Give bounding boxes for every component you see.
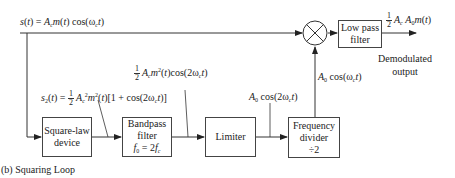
limiter-output-label: A0 cos(2ωct) — [249, 91, 298, 106]
bandpass-filter-block: Bandpass filter f0 = 2fc — [122, 117, 172, 157]
lowpass-filter-block: Low pass filter — [338, 20, 382, 48]
figure-caption: (b) Squaring Loop — [1, 164, 75, 175]
square-law-device-block: Square-law device — [42, 117, 92, 157]
bandpass-line2: filter — [137, 130, 156, 142]
divider-line1: Frequency — [293, 120, 335, 132]
lowpass-line1: Low pass — [341, 22, 379, 34]
square-law-line1: Square-law — [44, 125, 90, 137]
bandpass-line1: Bandpass — [128, 118, 166, 130]
demodulated-output-label: Demodulated output — [372, 52, 438, 78]
divider-output-label: A0 cos(ωct) — [318, 71, 362, 86]
bpf-output-label: 12Acm2(t)cos(2ωct) — [134, 65, 208, 82]
s2-signal-label: s2(t) = 12Ac2m2(t)[1 + cos(2ωct)] — [41, 90, 167, 107]
frequency-divider-block: Frequency divider ÷2 — [288, 117, 340, 158]
square-law-line2: device — [54, 137, 80, 149]
limiter-block: Limiter — [205, 117, 256, 157]
limiter-line1: Limiter — [216, 131, 246, 143]
output-label-line1: Demodulated — [372, 52, 438, 65]
lowpass-line2: filter — [350, 34, 369, 46]
bandpass-line3: f0 = 2fc — [134, 142, 161, 157]
output-signal-label: 12Ac A0m(t) — [386, 12, 431, 29]
input-signal-label: s(t) = Acm(t) cos(ωct) — [20, 16, 104, 31]
divider-line2: divider — [300, 132, 328, 144]
output-label-line2: output — [372, 65, 438, 78]
divider-line3: ÷2 — [309, 144, 320, 156]
mixer-icon — [303, 21, 327, 45]
